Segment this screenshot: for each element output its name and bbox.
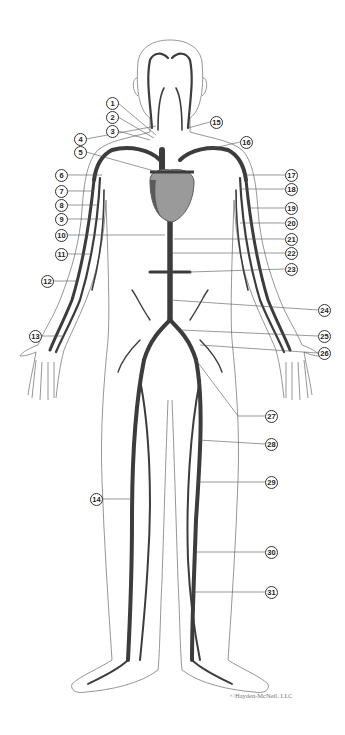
callout-13: 13	[29, 330, 42, 343]
callout-26: 26	[318, 347, 331, 360]
callout-23: 23	[285, 263, 298, 276]
callout-12: 12	[41, 275, 54, 288]
callout-22: 22	[285, 247, 298, 260]
callout-11: 11	[55, 248, 68, 261]
callout-10: 10	[55, 229, 68, 242]
callout-20: 20	[285, 217, 298, 230]
callout-29: 29	[265, 476, 278, 489]
callout-3: 3	[106, 125, 119, 138]
callout-6: 6	[55, 169, 68, 182]
callout-5: 5	[74, 146, 87, 159]
callout-18: 18	[285, 183, 298, 196]
copyright-notice: ©Hayden-McNeil, LLC	[230, 692, 293, 699]
callout-30: 30	[265, 546, 278, 559]
callout-25: 25	[318, 330, 331, 343]
callout-2: 2	[106, 111, 119, 124]
callout-24: 24	[318, 304, 331, 317]
venous-system-diagram	[0, 0, 345, 735]
heart	[150, 169, 194, 222]
callout-8: 8	[55, 199, 68, 212]
callout-31: 31	[265, 586, 278, 599]
callout-15: 15	[210, 116, 223, 129]
callout-28: 28	[265, 438, 278, 451]
callout-14: 14	[90, 493, 103, 506]
callout-7: 7	[55, 185, 68, 198]
callout-17: 17	[285, 169, 298, 182]
callout-9: 9	[55, 213, 68, 226]
callout-27: 27	[265, 410, 278, 423]
callout-21: 21	[285, 233, 298, 246]
callout-1: 1	[106, 97, 119, 110]
callout-4: 4	[74, 133, 87, 146]
callout-19: 19	[285, 202, 298, 215]
callout-16: 16	[240, 136, 253, 149]
